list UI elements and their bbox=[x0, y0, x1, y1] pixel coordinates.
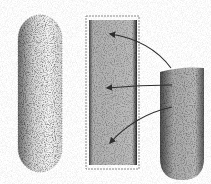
pale-cell bbox=[18, 15, 62, 172]
diagram-canvas bbox=[0, 0, 211, 184]
dark-cell bbox=[160, 66, 204, 180]
